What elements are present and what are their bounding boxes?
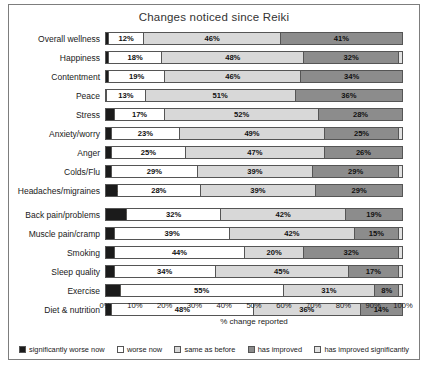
stacked-bar: 3%39%42%15% <box>105 227 403 240</box>
segment-value-label: 29% <box>348 168 363 176</box>
legend-swatch <box>248 346 255 353</box>
bar-segment: 3% <box>106 247 115 258</box>
bar-segment: 15% <box>355 228 399 239</box>
segment-value-label: 19% <box>366 211 381 219</box>
segment-value-label: 49% <box>244 130 259 138</box>
bar-segment: 13% <box>107 90 145 101</box>
bar-segment <box>399 285 402 296</box>
category-label: Peace <box>9 91 105 101</box>
category-label: Sleep quality <box>9 267 105 277</box>
stacked-bar: 3%17%52%28% <box>105 108 403 121</box>
bar-segment: 45% <box>216 266 349 277</box>
segment-value-label: 23% <box>138 130 153 138</box>
category-label: Stress <box>9 110 105 120</box>
segment-value-label: 29% <box>147 168 162 176</box>
segment-value-label: 48% <box>225 54 240 62</box>
bar-segment: 51% <box>146 90 296 101</box>
bar-segment: 49% <box>180 128 325 139</box>
bar-segment: 7% <box>106 209 127 220</box>
legend-item: has improved significantly <box>314 345 409 354</box>
legend-label: significantly worse now <box>29 345 105 354</box>
segment-value-label: 44% <box>172 249 187 257</box>
bar-segment: 3% <box>106 109 115 120</box>
segment-value-label: 15% <box>369 230 384 238</box>
bar-segment: 4% <box>106 185 118 196</box>
category-label: Headaches/migraines <box>9 186 105 196</box>
segment-value-label: 29% <box>351 187 366 195</box>
segment-value-label: 32% <box>166 211 181 219</box>
x-tick-label: 90% <box>366 301 381 310</box>
segment-value-label: 47% <box>247 149 262 157</box>
bar-segment: 34% <box>301 71 402 82</box>
x-tick-label: 30% <box>187 301 202 310</box>
bar-segment: 32% <box>304 52 399 63</box>
segment-value-label: 46% <box>204 35 219 43</box>
bar-row: Smoking3%44%20%32% <box>9 243 419 262</box>
bar-row: Back pain/problems7%32%42%19% <box>9 205 419 224</box>
bar-row: Exercise5%55%31%8% <box>9 281 419 300</box>
bar-row: Headaches/migraines4%28%39%29% <box>9 181 419 200</box>
bar-segment <box>399 52 402 63</box>
segment-value-label: 46% <box>225 73 240 81</box>
x-tick-label: 50% <box>246 301 261 310</box>
segment-value-label: 31% <box>321 287 336 295</box>
bar-segment: 26% <box>325 147 402 158</box>
category-label: Contentment <box>9 72 105 82</box>
chart-container: Changes noticed since Reiki Overall well… <box>8 4 420 360</box>
bar-segment <box>399 266 402 277</box>
bar-segment <box>399 247 402 258</box>
stacked-bar: 2%25%47%26% <box>105 146 403 159</box>
bar-segment: 31% <box>284 285 376 296</box>
bar-segment: 29% <box>112 166 198 177</box>
bar-row: Colds/Flu2%29%39%29% <box>9 162 419 181</box>
legend-label: same as before <box>184 345 235 354</box>
bar-segment: 8% <box>375 285 399 296</box>
segment-value-label: 36% <box>341 92 356 100</box>
segment-value-label: 17% <box>132 111 147 119</box>
x-tick-label: 10% <box>127 301 142 310</box>
category-label: Anxiety/worry <box>9 129 105 139</box>
legend-label: has improved <box>258 345 302 354</box>
segment-value-label: 18% <box>127 54 142 62</box>
bar-segment: 39% <box>201 185 316 196</box>
bar-row: Peace0.4%13%51%36% <box>9 86 419 105</box>
legend-swatch <box>19 346 26 353</box>
bar-row: Anger2%25%47%26% <box>9 143 419 162</box>
segment-value-label: 45% <box>274 268 289 276</box>
bar-segment: 28% <box>118 185 201 196</box>
bar-segment: 39% <box>198 166 313 177</box>
segment-value-label: 55% <box>194 287 209 295</box>
bar-segment: 20% <box>245 247 304 258</box>
bar-segment: 52% <box>165 109 319 120</box>
plot-area: Overall wellness1%12%46%41%Happiness1%18… <box>9 29 419 359</box>
bar-segment: 46% <box>144 33 280 44</box>
category-label: Colds/Flu <box>9 167 105 177</box>
bar-segment: 41% <box>281 33 402 44</box>
legend-item: same as before <box>174 345 235 354</box>
bar-row: Overall wellness1%12%46%41% <box>9 29 419 48</box>
stacked-bar: 1%19%46%34% <box>105 70 403 83</box>
legend-swatch <box>117 346 124 353</box>
bar-segment: 28% <box>319 109 402 120</box>
category-label: Anger <box>9 148 105 158</box>
x-tick-label: 70% <box>306 301 321 310</box>
bar-segment: 18% <box>109 52 162 63</box>
legend-item: has improved <box>248 345 302 354</box>
bar-segment: 25% <box>325 128 399 139</box>
segment-value-label: 28% <box>151 187 166 195</box>
category-label: Exercise <box>9 286 105 296</box>
bar-segment: 42% <box>230 228 354 239</box>
stacked-bar: 3%34%45%17% <box>105 265 403 278</box>
bar-row: Anxiety/worry2%23%49%25% <box>9 124 419 143</box>
segment-value-label: 39% <box>250 187 265 195</box>
segment-value-label: 41% <box>334 35 349 43</box>
bar-segment: 23% <box>112 128 180 139</box>
bar-row: Muscle pain/cramp3%39%42%15% <box>9 224 419 243</box>
bar-row: Contentment1%19%46%34% <box>9 67 419 86</box>
segment-value-label: 42% <box>284 230 299 238</box>
bar-segment: 29% <box>316 185 402 196</box>
legend-swatch <box>314 346 321 353</box>
bar-segment: 55% <box>121 285 284 296</box>
bar-segment: 47% <box>186 147 325 158</box>
bar-segment: 12% <box>109 33 145 44</box>
